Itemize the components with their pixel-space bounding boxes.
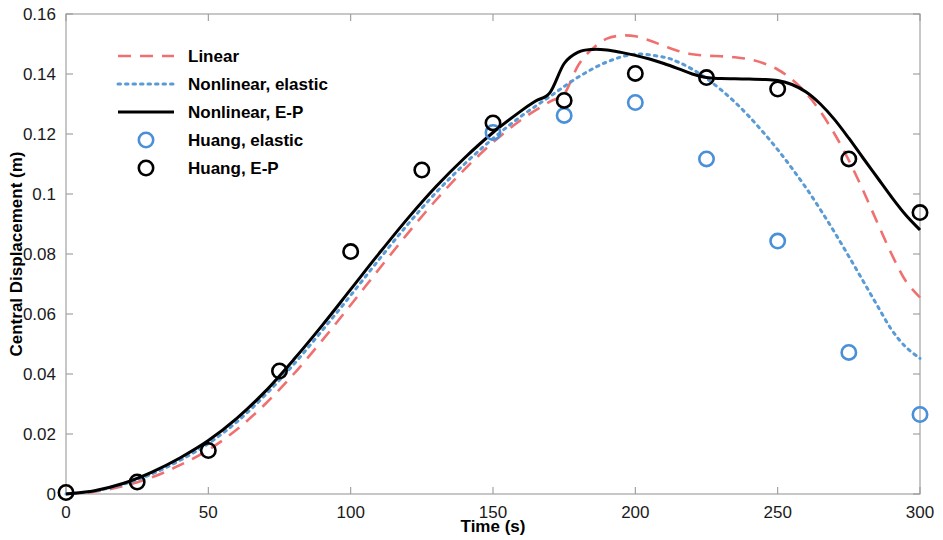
y-tick-label: 0.02: [23, 425, 56, 444]
y-tick-label: 0.14: [23, 65, 56, 84]
x-tick-label: 300: [906, 503, 934, 522]
scatter-marker: [557, 93, 571, 107]
x-tick-label: 100: [336, 503, 364, 522]
y-tick-label: 0: [47, 485, 56, 504]
scatter-marker: [415, 163, 429, 177]
y-tick-label: 0.08: [23, 245, 56, 264]
legend-label: Nonlinear, E-P: [188, 103, 303, 122]
y-tick-label: 0.1: [32, 185, 56, 204]
x-tick-label: 50: [199, 503, 218, 522]
scatter-marker: [842, 345, 856, 359]
x-axis-title: Time (s): [461, 517, 526, 536]
x-tick-label: 200: [621, 503, 649, 522]
scatter-marker: [699, 152, 713, 166]
x-tick-label: 250: [763, 503, 791, 522]
y-tick-label: 0.06: [23, 305, 56, 324]
legend-label: Huang, elastic: [188, 131, 303, 150]
y-axis-title: Central Displacement (m): [7, 152, 26, 357]
scatter-marker: [486, 116, 500, 130]
scatter-marker: [557, 108, 571, 122]
y-tick-label: 0.16: [23, 5, 56, 24]
y-tick-label: 0.12: [23, 125, 56, 144]
x-tick-label: 0: [61, 503, 70, 522]
y-tick-label: 0.04: [23, 365, 56, 384]
scatter-marker: [770, 234, 784, 248]
chart-figure: 050100150200250300 00.020.040.060.080.10…: [0, 0, 943, 540]
scatter-marker: [628, 66, 642, 80]
legend-marker: [139, 133, 153, 147]
chart-legend: LinearNonlinear, elasticNonlinear, E-PHu…: [118, 47, 328, 178]
scatter-marker: [343, 244, 357, 258]
chart-canvas: 050100150200250300 00.020.040.060.080.10…: [0, 0, 943, 540]
scatter-marker: [201, 443, 215, 457]
scatter-marker: [770, 82, 784, 96]
legend-marker: [139, 161, 153, 175]
legend-label: Linear: [188, 47, 239, 66]
y-axis-tick-labels: 00.020.040.060.080.10.120.140.16: [23, 5, 56, 504]
scatter-marker: [628, 95, 642, 109]
legend-label: Huang, E-P: [188, 159, 279, 178]
legend-label: Nonlinear, elastic: [188, 75, 328, 94]
